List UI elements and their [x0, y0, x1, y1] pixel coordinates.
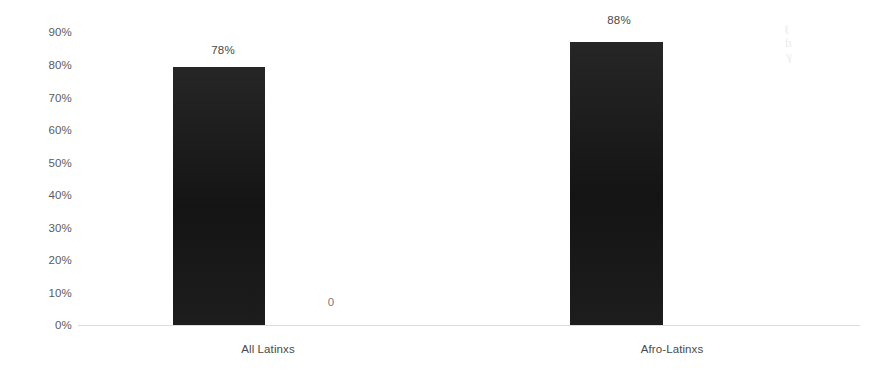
scan-artifact-mark: γ	[786, 47, 813, 63]
y-axis-tick-label: 20%	[12, 254, 72, 266]
x-axis-category-label-afro-latinxs: Afro-Latinxs	[641, 343, 704, 355]
y-axis-tick-label: 10%	[12, 287, 72, 299]
bar-value-label: 88%	[607, 14, 631, 26]
zero-value-label: 0	[328, 296, 334, 308]
scan-artifact-smudge: ℓ ɦ γ	[783, 21, 815, 83]
bar-value-label: 78%	[211, 44, 235, 56]
x-axis-line	[78, 325, 860, 326]
y-axis-tick-label: 50%	[12, 157, 72, 169]
bar-all-latinxs	[173, 67, 265, 325]
y-axis-tick-label: 70%	[12, 92, 72, 104]
y-axis-tick-label: 40%	[12, 189, 72, 201]
bar-afro-latinxs	[570, 42, 663, 325]
y-axis-tick-label: 60%	[12, 124, 72, 136]
y-axis-tick-label: 0%	[12, 319, 72, 331]
y-axis-tick-label: 30%	[12, 222, 72, 234]
plot-area: 90% 80% 70% 60% 50% 40% 30% 20% 10% 0% 7…	[0, 0, 890, 372]
y-axis-tick-label: 90%	[12, 26, 72, 38]
y-axis-tick-label: 80%	[12, 59, 72, 71]
x-axis-category-label-all-latinxs: All Latinxs	[241, 343, 295, 355]
bar-chart-figure: 90% 80% 70% 60% 50% 40% 30% 20% 10% 0% 7…	[0, 0, 890, 372]
